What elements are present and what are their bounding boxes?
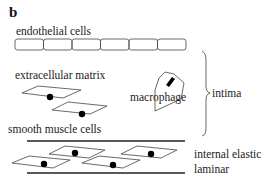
intima-brace	[202, 51, 210, 136]
smooth-muscle-cell	[52, 102, 107, 117]
nucleus	[72, 150, 78, 156]
macrophage-label: macrophage	[130, 91, 186, 104]
nucleus	[110, 162, 116, 168]
panel-label: b	[9, 4, 17, 20]
endothelial-cells-row	[15, 39, 186, 50]
nucleus	[79, 111, 85, 117]
endothelial-cell	[158, 39, 187, 50]
nucleus	[148, 151, 154, 157]
nucleus	[47, 94, 53, 100]
nucleus	[41, 161, 47, 167]
internal-elastic-label-line1: internal elastic	[194, 148, 261, 160]
macrophage-nucleus	[166, 77, 175, 87]
intima-diagram: b endothelial cells extracellular matrix…	[0, 0, 277, 183]
smooth-muscle-cell	[49, 146, 105, 158]
smooth-muscle-cell	[82, 156, 140, 168]
smooth-muscle-cells-label: smooth muscle cells	[8, 123, 102, 135]
smooth-muscle-cell	[121, 146, 177, 158]
endothelial-cell	[129, 39, 158, 50]
endothelial-cell	[44, 39, 73, 50]
endothelial-cell	[101, 39, 130, 50]
endothelial-cells-label: endothelial cells	[16, 25, 92, 37]
internal-elastic-label-line2: laminar	[194, 163, 229, 175]
intima-label: intima	[212, 87, 241, 99]
endothelial-cell	[15, 39, 44, 50]
smooth-muscle-cell	[12, 156, 70, 168]
extracellular-matrix-label: extracellular matrix	[15, 69, 106, 81]
smooth-muscle-cell	[22, 86, 81, 100]
endothelial-cell	[72, 39, 101, 50]
